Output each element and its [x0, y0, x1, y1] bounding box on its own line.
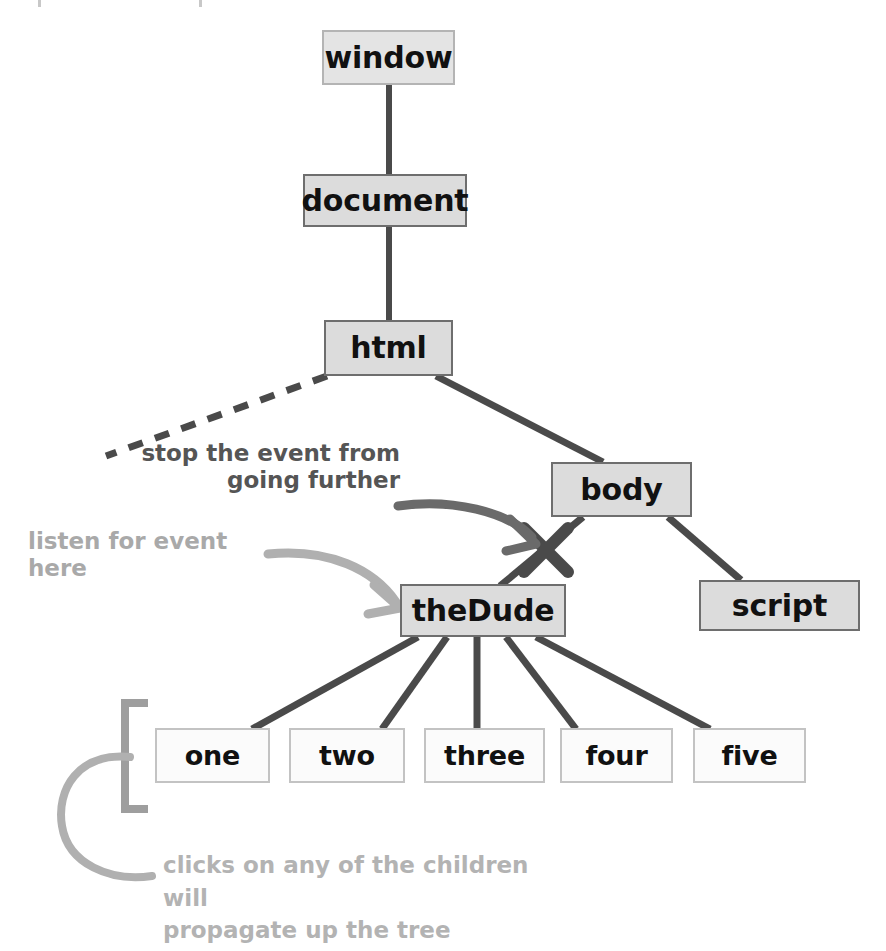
node-window[interactable]: window [322, 30, 455, 85]
node-body[interactable]: body [551, 462, 692, 517]
node-child-four[interactable]: four [560, 728, 673, 783]
node-body-label: body [580, 475, 662, 505]
node-thedude[interactable]: theDude [400, 584, 566, 637]
node-child-three-label: three [444, 742, 525, 769]
node-child-two-label: two [319, 742, 375, 769]
node-child-one[interactable]: one [155, 728, 270, 783]
node-html-label: html [350, 333, 426, 363]
dom-tree-diagram: window document html body script theDude… [0, 0, 886, 951]
node-document-label: document [302, 186, 469, 216]
node-thedude-label: theDude [412, 596, 555, 626]
scan-artifact [199, 0, 202, 7]
node-child-five-label: five [721, 742, 777, 769]
node-script-label: script [732, 591, 827, 621]
node-document[interactable]: document [303, 174, 467, 227]
scan-artifact [38, 0, 41, 7]
propagate-callout-curve [61, 757, 152, 878]
annotation-propagate: clicks on any of the children will propa… [163, 849, 563, 947]
annotation-listen-here: listen for event here [28, 528, 288, 582]
node-child-five[interactable]: five [693, 728, 806, 783]
node-window-label: window [325, 43, 453, 73]
node-child-one-label: one [185, 742, 240, 769]
node-script[interactable]: script [699, 580, 860, 631]
stop-event-arrow [398, 504, 536, 551]
node-child-four-label: four [585, 742, 647, 769]
node-html[interactable]: html [324, 320, 453, 376]
edge-body-script [668, 517, 741, 580]
annotation-stop-event: stop the event from going further [110, 440, 400, 494]
node-child-three[interactable]: three [424, 728, 545, 783]
node-child-two[interactable]: two [289, 728, 405, 783]
edge-html-body [436, 376, 603, 462]
